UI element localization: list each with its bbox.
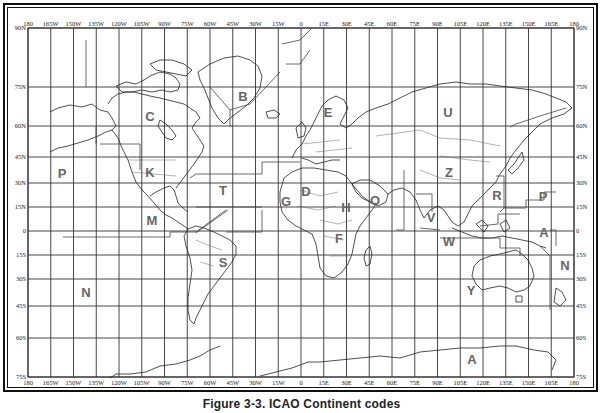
top-longitude-tick: 75W [181, 20, 195, 27]
bottom-longitude-tick: 105E [453, 379, 467, 386]
top-longitude-tick: 165W [43, 20, 60, 27]
bottom-longitude-tick: 165E [544, 379, 558, 386]
left-latitude-tick: 15N [15, 203, 27, 210]
right-latitude-tick: 15S [576, 251, 587, 258]
left-latitude-tick: 30N [15, 179, 27, 186]
australia-coast [472, 250, 534, 302]
top-longitude-tick: 45W [226, 20, 240, 27]
bottom-longitude-tick: 150E [522, 379, 536, 386]
top-longitude-tick: 105E [453, 20, 467, 27]
region-label-v: V [427, 210, 436, 225]
indonesia-coast [452, 220, 546, 248]
bottom-longitude-tick: 150W [66, 379, 83, 386]
antarctica-coast [110, 346, 556, 378]
new-zealand-coast [554, 288, 566, 306]
region-label-g: G [281, 194, 291, 209]
bottom-longitude-tick: 90E [432, 379, 443, 386]
top-longitude-tick: 90E [432, 20, 443, 27]
left-latitude-tick: 45S [16, 302, 27, 309]
top-longitude-tick: 135W [88, 20, 105, 27]
bottom-longitude-tick: 120E [476, 379, 490, 386]
top-longitude-tick: 105W [134, 20, 151, 27]
bottom-longitude-tick: 180 [23, 379, 33, 386]
top-longitude-tick: 60W [204, 20, 218, 27]
left-latitude-tick: 60S [16, 334, 27, 341]
top-longitude-tick: 165E [544, 20, 558, 27]
top-longitude-tick: 30W [249, 20, 263, 27]
top-longitude-tick: 75E [410, 20, 421, 27]
right-latitude-tick: 15N [576, 203, 588, 210]
bottom-longitude-tick: 0 [299, 379, 302, 386]
bottom-longitude-tick: 45W [226, 379, 240, 386]
right-latitude-tick: 30S [576, 275, 587, 282]
left-latitude-tick: 75N [15, 83, 27, 90]
region-label-m: M [147, 213, 158, 228]
region-label-r: R [492, 188, 502, 203]
region-label-h: H [341, 200, 350, 215]
top-longitude-tick: 135E [499, 20, 513, 27]
region-label-y: Y [467, 283, 476, 298]
bottom-longitude-tick: 165W [43, 379, 60, 386]
asia-coast [388, 82, 572, 226]
bottom-longitude-tick: 90W [158, 379, 172, 386]
africa-coast [280, 168, 376, 278]
top-longitude-tick: 120W [111, 20, 128, 27]
right-latitude-tick: 60N [576, 122, 588, 129]
region-label-f: F [335, 231, 343, 246]
left-latitude-tick: 30S [16, 275, 27, 282]
left-latitude-tick: 60N [15, 122, 27, 129]
region-label-w: W [443, 234, 456, 249]
bottom-longitude-tick: 135E [499, 379, 513, 386]
right-latitude-tick: 75S [576, 373, 587, 380]
bottom-longitude-tick: 135W [88, 379, 105, 386]
bottom-longitude-tick: 30W [249, 379, 263, 386]
region-label-c: C [145, 109, 155, 124]
bottom-longitude-tick: 45E [364, 379, 375, 386]
bottom-longitude-tick: 75W [181, 379, 195, 386]
region-label-n: N [81, 285, 90, 300]
right-latitude-tick: 0 [576, 227, 579, 234]
right-latitude-tick: 90N [576, 24, 588, 31]
top-longitude-tick: 15E [319, 20, 330, 27]
world-map: 180180165W165W150W150W135W135W120W120W10… [0, 0, 603, 413]
bottom-longitude-tick: 15W [272, 379, 286, 386]
region-label-n: N [560, 258, 569, 273]
top-longitude-tick: 90W [158, 20, 172, 27]
region-label-p: P [58, 166, 67, 181]
coastlines [50, 56, 572, 378]
top-longitude-tick: 30E [341, 20, 352, 27]
region-label-b: B [238, 89, 247, 104]
left-latitude-tick: 90N [15, 24, 27, 31]
region-label-t: T [219, 183, 227, 198]
bottom-longitude-tick: 180 [569, 379, 579, 386]
right-latitude-tick: 75N [576, 83, 588, 90]
europe-coast [292, 92, 412, 164]
region-label-k: K [145, 165, 155, 180]
top-longitude-tick: 45E [364, 20, 375, 27]
region-label-u: U [443, 105, 452, 120]
bottom-longitude-tick: 105W [134, 379, 151, 386]
left-latitude-tick: 15S [16, 251, 27, 258]
top-longitude-tick: 0 [299, 20, 302, 27]
left-latitude-tick: 0 [23, 227, 26, 234]
region-label-p: P [539, 189, 548, 204]
region-label-a: A [467, 352, 477, 367]
bottom-longitude-tick: 30E [341, 379, 352, 386]
bottom-longitude-tick: 15E [319, 379, 330, 386]
icao-region-boundaries [63, 28, 566, 310]
bottom-longitude-tick: 120W [111, 379, 128, 386]
top-longitude-tick: 60E [387, 20, 398, 27]
top-longitude-tick: 15W [272, 20, 286, 27]
region-labels: BCKPTMGDEUZHORPVWAFSNNYA [58, 89, 570, 367]
right-latitude-tick: 60S [576, 334, 587, 341]
left-latitude-tick: 75S [16, 373, 27, 380]
right-latitude-tick: 45S [576, 302, 587, 309]
top-longitude-tick: 150E [522, 20, 536, 27]
bottom-longitude-tick: 60E [387, 379, 398, 386]
region-label-z: Z [445, 165, 453, 180]
left-latitude-tick: 45N [15, 153, 27, 160]
region-label-a: A [539, 225, 549, 240]
figure-caption: Figure 3-3. ICAO Continent codes [0, 397, 603, 411]
right-latitude-tick: 30N [576, 179, 588, 186]
madagascar-coast [364, 246, 372, 266]
